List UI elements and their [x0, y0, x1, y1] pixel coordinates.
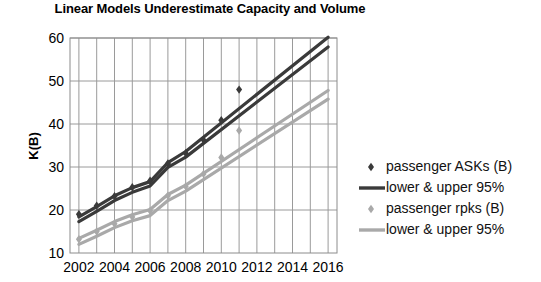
- y-tick-label: 20: [48, 202, 64, 218]
- chart-plot: 102030405060 200220042006200820102012201…: [0, 0, 541, 282]
- legend-label: passenger rpks (B): [386, 200, 504, 216]
- x-tick-label: 2016: [313, 259, 344, 275]
- x-tick-label: 2010: [206, 259, 237, 275]
- x-tick-label: 2012: [241, 259, 272, 275]
- legend-marker-icon: [368, 205, 374, 213]
- x-axis-tick-labels: 20022004200620082010201220142016: [63, 259, 344, 275]
- y-axis-tick-labels: 102030405060: [48, 30, 64, 261]
- legend-label: passenger ASKs (B): [386, 158, 512, 174]
- x-tick-label: 2004: [99, 259, 130, 275]
- y-tick-label: 40: [48, 116, 64, 132]
- y-tick-label: 50: [48, 73, 64, 89]
- y-tick-label: 10: [48, 245, 64, 261]
- x-tick-label: 2002: [63, 259, 94, 275]
- x-tick-label: 2006: [135, 259, 166, 275]
- x-tick-label: 2014: [277, 259, 308, 275]
- y-axis-title: K(B): [26, 132, 41, 159]
- x-tick-label: 2008: [170, 259, 201, 275]
- legend-marker-icon: [368, 163, 374, 171]
- legend-label: lower & upper 95%: [386, 221, 504, 237]
- chart-legend: passenger ASKs (B)lower & upper 95%passe…: [359, 158, 512, 237]
- legend-label: lower & upper 95%: [386, 179, 504, 195]
- chart-container: Linear Models Underestimate Capacity and…: [0, 0, 541, 282]
- y-tick-label: 60: [48, 30, 64, 46]
- y-tick-label: 30: [48, 159, 64, 175]
